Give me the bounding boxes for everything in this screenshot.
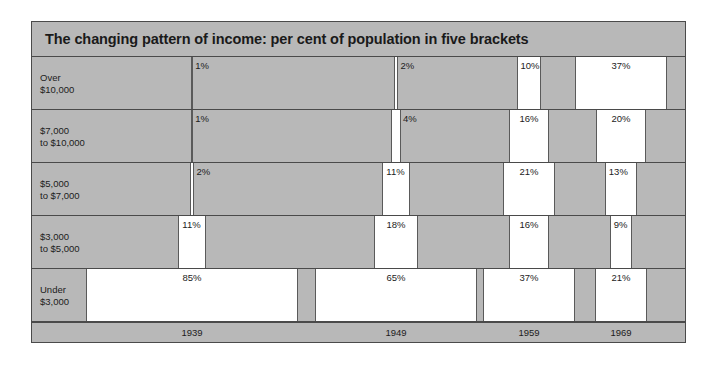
bar-value-under-3000-1939: 85% [87, 272, 297, 283]
chart-title-band: The changing pattern of income: per cent… [32, 22, 685, 57]
year-tick-1949: 1949 [385, 327, 406, 338]
year-tick-1939: 1939 [181, 327, 202, 338]
bar-3000-to-5000-1949: 18% [374, 216, 419, 268]
bracket-label-7000-to-10000: $7,000 to $10,000 [40, 125, 85, 148]
bar-7000-to-10000-1959: 16% [509, 110, 549, 162]
bar-under-3000-1969: 21% [595, 269, 647, 321]
bar-value-5000-to-7000-1949: 11% [386, 166, 404, 177]
bar-under-3000-1959: 37% [483, 269, 575, 321]
chart-frame: The changing pattern of income: per cent… [31, 21, 686, 343]
bracket-label-over-10000: Over $10,000 [40, 72, 74, 95]
bracket-row-7000-to-10000: $7,000 to $10,0001%4%16%20% [32, 110, 685, 163]
chart-title: The changing pattern of income: per cent… [32, 31, 529, 47]
bar-value-5000-to-7000-1959: 21% [504, 166, 554, 177]
bar-value-7000-to-10000-1949: 4% [403, 113, 417, 124]
bar-over-10000-1959: 10% [517, 57, 542, 109]
bar-over-10000-1939: 1% [191, 57, 193, 109]
bar-value-7000-to-10000-1969: 20% [597, 113, 645, 124]
bar-7000-to-10000-1969: 20% [596, 110, 646, 162]
bracket-row-5000-to-7000: $5,000 to $7,0002%11%21%13% [32, 163, 685, 216]
bracket-row-under-3000: Under $3,00085%65%37%21% [32, 269, 685, 322]
bar-under-3000-1949: 65% [315, 269, 477, 321]
bracket-label-under-3000: Under $3,000 [40, 284, 69, 307]
year-tick-1969: 1969 [610, 327, 631, 338]
year-tick-1959: 1959 [518, 327, 539, 338]
bar-over-10000-1949: 2% [394, 57, 399, 109]
bar-value-5000-to-7000-1969: 13% [609, 166, 628, 177]
bar-5000-to-7000-1949: 11% [382, 163, 409, 215]
bar-value-under-3000-1959: 37% [484, 272, 574, 283]
bar-value-5000-to-7000-1939: 2% [196, 166, 210, 177]
bar-value-over-10000-1939: 1% [195, 60, 209, 71]
bar-under-3000-1939: 85% [86, 269, 298, 321]
axis-band: 1939194919591969 [32, 322, 685, 342]
bar-7000-to-10000-1949: 4% [391, 110, 401, 162]
bar-3000-to-5000-1939: 11% [178, 216, 205, 268]
bar-5000-to-7000-1959: 21% [503, 163, 555, 215]
bracket-row-3000-to-5000: $3,000 to $5,00011%18%16%9% [32, 216, 685, 269]
bar-value-under-3000-1949: 65% [316, 272, 476, 283]
bar-value-3000-to-5000-1949: 18% [375, 219, 418, 230]
bar-over-10000-1969: 37% [575, 57, 667, 109]
bar-value-3000-to-5000-1959: 16% [510, 219, 548, 230]
bar-7000-to-10000-1939: 1% [191, 110, 193, 162]
bar-value-7000-to-10000-1939: 1% [195, 113, 209, 124]
bar-value-under-3000-1969: 21% [596, 272, 646, 283]
bracket-label-5000-to-7000: $5,000 to $7,000 [40, 178, 80, 201]
bar-value-3000-to-5000-1939: 11% [182, 219, 200, 230]
bar-5000-to-7000-1969: 13% [605, 163, 637, 215]
bar-3000-to-5000-1969: 9% [610, 216, 632, 268]
bracket-label-3000-to-5000: $3,000 to $5,000 [40, 231, 80, 254]
bar-value-7000-to-10000-1959: 16% [510, 113, 548, 124]
plot-body: Over $10,0001%2%10%37%$7,000 to $10,0001… [32, 57, 685, 322]
bar-value-3000-to-5000-1969: 9% [614, 219, 628, 230]
bar-3000-to-5000-1959: 16% [509, 216, 549, 268]
bracket-row-over-10000: Over $10,0001%2%10%37% [32, 57, 685, 110]
bar-value-over-10000-1969: 37% [576, 60, 666, 71]
bar-value-over-10000-1959: 10% [521, 60, 540, 71]
bar-value-over-10000-1949: 2% [400, 60, 414, 71]
bar-5000-to-7000-1939: 2% [190, 163, 195, 215]
